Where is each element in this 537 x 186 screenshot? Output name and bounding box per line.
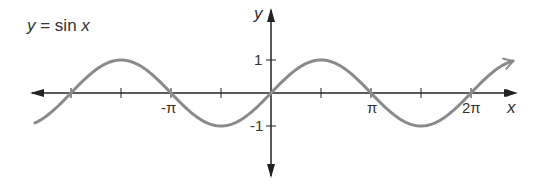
tick-label-two-pi: 2π: [462, 99, 481, 116]
chart-title: y = sin x: [27, 16, 90, 36]
tick-label-one: 1: [254, 51, 262, 68]
tick-label-neg-one: -1: [250, 117, 263, 134]
y-axis-down-arrow: [267, 164, 275, 178]
y-axis-up-arrow: [267, 8, 275, 22]
x-axis-left-arrow: [30, 89, 44, 97]
tick-label-pi: π: [367, 99, 377, 116]
tick-label-neg-pi: -π: [161, 99, 176, 116]
x-axis-right-arrow: [504, 89, 518, 97]
x-axis-label: x: [507, 98, 516, 118]
y-axis-label: y: [254, 4, 263, 24]
